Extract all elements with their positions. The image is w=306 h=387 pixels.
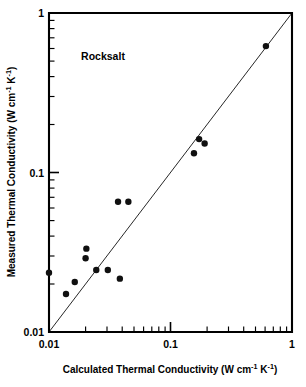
data-point: [105, 267, 111, 273]
y-tick-label-0: 0.01: [24, 326, 45, 338]
x-axis-title: Calculated Thermal Conductivity (W cm-1 …: [63, 362, 278, 375]
data-point: [125, 199, 131, 205]
data-point: [201, 140, 207, 146]
data-point: [63, 291, 69, 297]
annotation-rocksalt: Rocksalt: [81, 50, 125, 62]
y-axis-title: Measured Thermal Conductivity (W cm-1 K-…: [4, 67, 17, 278]
x-tick-label-2: 1: [289, 338, 295, 350]
x-axis-title-main: Calculated Thermal Conductivity (W cm: [63, 364, 251, 375]
data-point: [93, 267, 99, 273]
data-point: [117, 275, 123, 281]
scatter-plot-canvas: 0.01 0.1 1 0.01 0.1 1 Rocksalt Calculate…: [0, 0, 306, 387]
data-point: [46, 270, 52, 276]
x-axis-title-end: ): [274, 364, 277, 375]
data-point: [115, 199, 121, 205]
y-tick-label-2: 1: [38, 7, 44, 19]
chart-figure: 0.01 0.1 1 0.01 0.1 1 Rocksalt Calculate…: [0, 0, 306, 387]
x-tick-label-1: 0.1: [163, 338, 178, 350]
data-point: [82, 255, 88, 261]
y-axis-title-end: ): [6, 67, 17, 70]
data-point: [83, 245, 89, 251]
data-point: [196, 136, 202, 142]
data-point: [263, 43, 269, 49]
y-tick-label-1: 0.1: [29, 167, 44, 179]
x-tick-label-0: 0.01: [39, 338, 60, 350]
y-axis-title-main: Measured Thermal Conductivity (W cm: [6, 93, 17, 278]
data-point: [72, 279, 78, 285]
data-point: [191, 150, 197, 156]
